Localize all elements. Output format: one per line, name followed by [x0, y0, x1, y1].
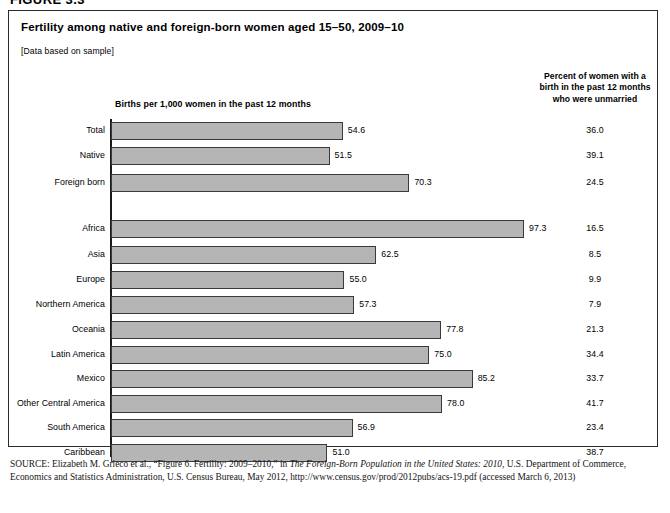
bar-value-label: 51.0 [332, 447, 349, 457]
bar-row: Europe55.09.9 [9, 270, 659, 291]
bar [111, 220, 524, 238]
bar [111, 174, 409, 192]
unmarried-percent-value: 16.5 [537, 223, 653, 233]
bar [111, 419, 353, 437]
bar-row: South America56.923.4 [9, 418, 659, 439]
bar-row: Africa97.316.5 [9, 219, 659, 240]
bar-category-label: Latin America [51, 349, 105, 359]
source-prefix: SOURCE: [10, 459, 50, 469]
bar-category-label: Europe [76, 274, 105, 284]
bar [111, 246, 376, 264]
unmarried-percent-value: 24.5 [537, 177, 653, 187]
bar [111, 370, 473, 388]
bar-row: Foreign born70.324.5 [9, 173, 659, 194]
unmarried-percent-value: 7.9 [537, 299, 653, 309]
bar-category-label: Northern America [36, 299, 105, 309]
figure-frame: Fertility among native and foreign-born … [8, 10, 658, 447]
bar-value-label: 75.0 [434, 349, 451, 359]
unmarried-percent-value: 39.1 [537, 150, 653, 160]
bar-row: Asia62.58.5 [9, 245, 659, 266]
bar-category-label: Caribbean [64, 447, 105, 457]
bar-category-label: Other Central America [17, 398, 105, 408]
bar-row: Other Central America78.041.7 [9, 394, 659, 415]
bar [111, 122, 343, 140]
bar-category-label: Asia [88, 249, 105, 259]
bar [111, 346, 429, 364]
bar-row: Mexico85.233.7 [9, 369, 659, 390]
bar [111, 271, 344, 289]
bar-value-label: 57.3 [359, 299, 376, 309]
bar-row: Oceania77.821.3 [9, 320, 659, 341]
bar-category-label: Mexico [77, 373, 105, 383]
unmarried-percent-value: 34.4 [537, 349, 653, 359]
unmarried-percent-value: 21.3 [537, 324, 653, 334]
bar-value-label: 85.2 [478, 373, 495, 383]
bar-value-label: 54.6 [348, 125, 365, 135]
bar-value-label: 56.9 [358, 422, 375, 432]
bar [111, 321, 441, 339]
figure-number-caption: FIGURE 3.3 [10, 0, 85, 5]
unmarried-percent-value: 23.4 [537, 422, 653, 432]
bar-value-label: 51.5 [335, 150, 352, 160]
bar [111, 296, 354, 314]
source-publication-title: The Foreign-Born Population in the Unite… [290, 459, 502, 469]
source-note: SOURCE: Elizabeth M. Grieco et al., “Fig… [10, 458, 658, 484]
unmarried-percent-value: 33.7 [537, 373, 653, 383]
bar-category-label: Total [86, 125, 105, 135]
bar-value-label: 77.8 [446, 324, 463, 334]
bar [111, 147, 330, 165]
bar-category-label: Oceania [72, 324, 105, 334]
unmarried-percent-value: 9.9 [537, 274, 653, 284]
bar-category-label: Africa [82, 223, 105, 233]
source-text-part1: Elizabeth M. Grieco et al., “Figure 6. F… [50, 459, 290, 469]
bar-row: Total54.636.0 [9, 121, 659, 142]
bar-chart-plot-area: Total54.636.0Native51.539.1Foreign born7… [9, 11, 659, 448]
bar-category-label: South America [47, 422, 105, 432]
bar-category-label: Foreign born [55, 177, 105, 187]
unmarried-percent-value: 36.0 [537, 125, 653, 135]
bar [111, 395, 442, 413]
bar-value-label: 62.5 [381, 249, 398, 259]
bar-value-label: 70.3 [414, 177, 431, 187]
unmarried-percent-value: 41.7 [537, 398, 653, 408]
bar-row: Latin America75.034.4 [9, 345, 659, 366]
unmarried-percent-value: 38.7 [537, 447, 653, 457]
bar-row: Native51.539.1 [9, 146, 659, 167]
unmarried-percent-value: 8.5 [537, 249, 653, 259]
bar-value-label: 78.0 [447, 398, 464, 408]
bar-category-label: Native [80, 150, 105, 160]
bar-row: Northern America57.37.9 [9, 295, 659, 316]
bar-value-label: 55.0 [349, 274, 366, 284]
